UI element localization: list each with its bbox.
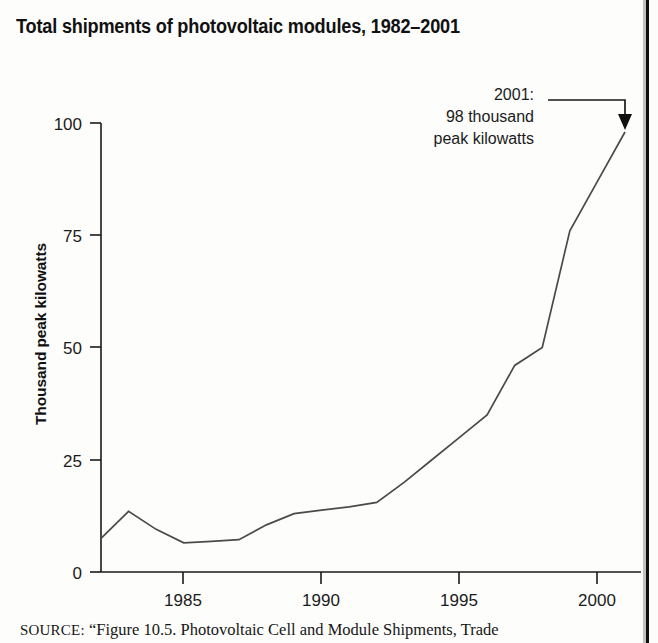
- x-axis-ticks: [183, 572, 597, 584]
- data-series-line: [101, 132, 625, 543]
- annotation-line-2: 98 thousand: [446, 108, 534, 125]
- x-tick-label-1985: 1985: [164, 591, 202, 610]
- chart-plot: 100 75 50 25 0 1985 1990 1995 2000 Thous…: [0, 0, 658, 643]
- annotation-line-3: peak kilowatts: [434, 130, 535, 147]
- y-tick-label-100: 100: [54, 115, 82, 134]
- x-tick-label-2000: 2000: [578, 591, 616, 610]
- y-axis-ticks: [90, 123, 101, 572]
- y-tick-label-75: 75: [63, 227, 82, 246]
- figure-container: Total shipments of photovoltaic modules,…: [0, 0, 658, 643]
- annotation-line-1: 2001:: [494, 86, 534, 103]
- source-label: SOURCE:: [20, 622, 85, 638]
- annotation-leader: [548, 100, 632, 130]
- source-note: SOURCE: “Figure 10.5. Photovoltaic Cell …: [20, 620, 640, 640]
- x-tick-label-1990: 1990: [302, 591, 340, 610]
- y-tick-label-25: 25: [63, 452, 82, 471]
- x-tick-label-1995: 1995: [440, 591, 478, 610]
- page-edge: [646, 0, 649, 643]
- y-tick-label-50: 50: [63, 339, 82, 358]
- y-axis-title: Thousand peak kilowatts: [32, 243, 49, 425]
- y-tick-label-0: 0: [73, 564, 82, 583]
- source-text: “Figure 10.5. Photovoltaic Cell and Modu…: [89, 620, 499, 639]
